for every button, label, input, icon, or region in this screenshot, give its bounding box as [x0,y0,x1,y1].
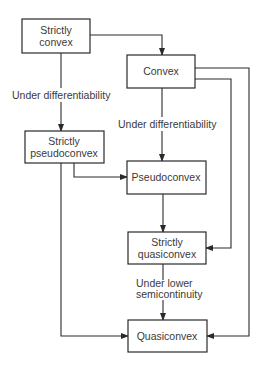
node-label: Strictly [40,24,72,36]
edge-label-lower-semicontinuity-line2: semicontinuity [136,288,203,300]
node-strictly-convex: Strictly convex [22,19,90,53]
node-label: pseudoconvex [30,147,98,159]
edge-label-left-differentiability: Under differentiability [12,89,111,101]
edge-strictly-pseudoconvex-to-quasiconvex [61,163,128,336]
node-label: Quasiconvex [137,330,198,342]
convexity-hierarchy-diagram: Under differentiability Under differenti… [0,0,263,367]
edge-strictly-pseudoconvex-to-pseudoconvex [74,163,127,177]
node-label: Strictly [48,135,80,147]
node-label: Convex [143,65,179,77]
node-label: convex [39,36,73,48]
edge-strictly-convex-to-convex [90,35,162,55]
node-label: Strictly [151,236,183,248]
node-convex: Convex [127,55,195,88]
node-strictly-pseudoconvex: Strictly pseudoconvex [25,131,104,163]
edge-convex-to-quasiconvex [195,68,249,336]
node-pseudoconvex: Pseudoconvex [127,161,206,194]
node-label: quasiconvex [138,248,197,260]
node-label: Pseudoconvex [132,171,202,183]
edge-label-center-differentiability: Under differentiability [118,118,217,130]
node-quasiconvex: Quasiconvex [128,320,207,352]
node-strictly-quasiconvex: Strictly quasiconvex [128,232,206,264]
